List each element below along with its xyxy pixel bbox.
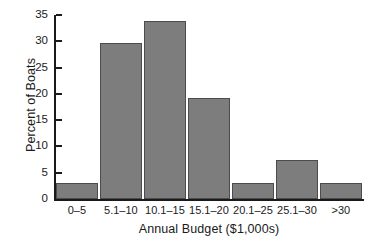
x-axis-line (54, 199, 364, 201)
y-axis-tick-label: 25 (24, 62, 48, 74)
bar (144, 21, 186, 199)
x-axis-tick-labels: 0–55.1–1010.1–1515.1–2020.1–2525.1–30>30 (56, 203, 364, 219)
x-axis-tick-label: >30 (320, 203, 362, 217)
x-axis-tick-label: 25.1–30 (276, 203, 318, 217)
y-axis-tick-label: 0 (24, 193, 48, 205)
bar (56, 183, 98, 199)
y-axis-tick-label: 10 (24, 141, 48, 153)
y-axis-tick-label: 15 (24, 114, 48, 126)
bar (320, 183, 362, 199)
x-axis-tick-label: 0–5 (56, 203, 98, 217)
y-axis-tick-label: 5 (24, 167, 48, 179)
histogram-figure: Percent of Boats 05101520253035 0–55.1–1… (0, 0, 371, 246)
x-axis-tick-label: 10.1–15 (144, 203, 186, 217)
bar (188, 98, 230, 199)
bar (232, 183, 274, 199)
x-axis-tick-label: 5.1–10 (100, 203, 142, 217)
bar (100, 43, 142, 199)
x-axis-tick-label: 15.1–20 (188, 203, 230, 217)
y-axis-tick-label: 30 (24, 36, 48, 48)
x-axis-title: Annual Budget ($1,000s) (54, 222, 364, 236)
bar (276, 160, 318, 199)
bar-series (56, 15, 364, 199)
plot-area (54, 15, 364, 199)
y-axis-tick-label: 20 (24, 88, 48, 100)
x-axis-tick-label: 20.1–25 (232, 203, 274, 217)
y-axis-tick-labels: 05101520253035 (24, 0, 48, 246)
y-axis-tick-label: 35 (24, 9, 48, 21)
